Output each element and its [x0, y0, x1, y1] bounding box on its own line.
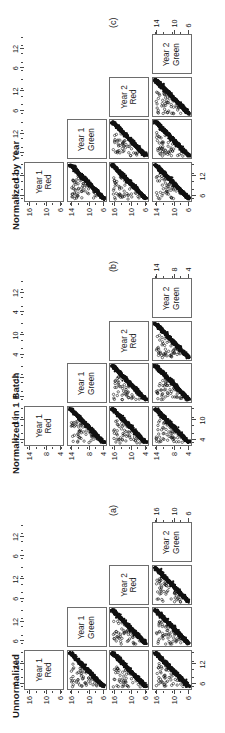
y-tick-mark [174, 691, 175, 695]
x-tick-mark [20, 664, 24, 665]
y-tick-minor [155, 447, 156, 449]
y-tick-minor [188, 447, 189, 449]
figure-panel-c: Normalized by Year(c)6101661014610166101… [0, 0, 225, 244]
y-tick-minor [129, 203, 130, 205]
x-tick-label-bottom-c-1: 12 [198, 168, 207, 184]
y-tick-minor [61, 447, 62, 449]
y-tick-label-c-r1-0: 6 [99, 208, 108, 224]
y-tick-minor [36, 203, 37, 205]
scatter-cell-c-r3c1 [152, 120, 192, 160]
y-tick-label-a-r2-0: 6 [141, 696, 150, 712]
variable-label-line2: Green [172, 287, 181, 310]
x-tick-mark [20, 396, 24, 397]
y-tick-label-b-r1-2: 14 [67, 452, 76, 468]
y-tick-minor [44, 203, 45, 205]
x-tick-label-a-c1-0: 6 [11, 633, 20, 649]
panel-letter-c: (c) [108, 18, 118, 29]
y-tick-minor [112, 691, 113, 693]
x-tick-label-b-c2-1: 10 [11, 327, 20, 343]
scatter-cell-a-r1c0 [67, 650, 107, 690]
y-tick-label-c-r0-2: 16 [25, 208, 34, 224]
scatterplot-matrix-b: Year 1RedYear 1GreenYear 2RedYear 2Green [24, 276, 194, 446]
y-tick-mark [71, 447, 72, 451]
y-tick-minor [36, 691, 37, 693]
variable-label-line1: Year 1 [35, 414, 44, 437]
y-tick-label-b-r3-1: 8 [170, 452, 179, 468]
y-tick-minor [78, 203, 79, 205]
diagonal-label-cell-a-3: Year 2Green [152, 523, 192, 563]
x-tick-label-b-c3-1: 12 [11, 285, 20, 301]
scatter-cell-b-r2c0 [109, 406, 149, 446]
y-tick-minor [112, 203, 113, 205]
scatterplot-matrix-c: Year 1RedYear 1GreenYear 2RedYear 2Green [24, 32, 194, 202]
x-tick-label-bottom-b-0: 4 [198, 432, 207, 448]
y-tick-label-b-r2-0: 4 [141, 452, 150, 468]
diagonal-label-cell-b-1: Year 1Green [67, 364, 107, 404]
y-tick-label-b-r2-2: 16 [110, 452, 119, 468]
y-tick-mark [114, 691, 115, 695]
x-tick-label-b-c0-1: 10 [11, 412, 20, 428]
y-tick-label-a-r0-1: 10 [42, 696, 51, 712]
variable-label-line2: Red [44, 174, 53, 189]
variable-label-line1: Year 1 [77, 128, 86, 151]
y-tick-minor [70, 691, 71, 693]
y-tick-label-c-r0-1: 10 [42, 208, 51, 224]
x-tick-mark [20, 439, 24, 440]
y-tick-minor [78, 447, 79, 449]
variable-label-line1: Year 1 [77, 372, 86, 395]
x-tick-label-b-c0-0: 4 [11, 432, 20, 448]
y-tick-label-a-r0-2: 16 [25, 696, 34, 712]
y-tick-minor [103, 447, 104, 449]
scatter-cell-b-r3c0 [152, 406, 192, 446]
y-tick-minor [44, 691, 45, 693]
y-tick-minor [137, 203, 138, 205]
diagonal-label-cell-c-0: Year 1Red [24, 162, 64, 202]
diagonal-label-cell-a-2: Year 2Red [109, 565, 149, 605]
y-tick-mark [114, 447, 115, 451]
variable-label-line1: Year 2 [120, 573, 129, 596]
x-tick-label-b-c1-1: 12 [11, 370, 20, 386]
x-tick-label-a-c0-1: 12 [11, 656, 20, 672]
y-tick-minor [95, 691, 96, 693]
x-tick-mark [20, 555, 24, 556]
y-tick-mark [89, 691, 90, 695]
figure-canvas: Normalized by Year(c)6101661014610166101… [0, 0, 225, 733]
y-tick-label-b-r0-2: 14 [25, 452, 34, 468]
y-tick-label-right-a-1: 10 [170, 500, 179, 516]
y-tick-label-c-r2-1: 10 [127, 208, 136, 224]
x-tick-mark [20, 48, 24, 49]
y-tick-label-c-r2-2: 16 [110, 208, 119, 224]
x-tick-label-a-c3-1: 12 [11, 529, 20, 545]
y-tick-minor [103, 203, 104, 205]
y-tick-mark [71, 203, 72, 207]
x-tick-mark [20, 292, 24, 293]
x-tick-label-c-c3-1: 12 [11, 41, 20, 57]
diagonal-label-cell-c-1: Year 1Green [67, 120, 107, 160]
y-tick-minor [121, 447, 122, 449]
diagonal-label-cell-b-0: Year 1Red [24, 406, 64, 446]
y-tick-minor [137, 447, 138, 449]
panel-letter-b: (b) [108, 261, 118, 272]
x-tick-label-a-c1-1: 12 [11, 614, 20, 630]
y-tick-label-a-r3-1: 10 [170, 696, 179, 712]
x-tick-mark [20, 420, 24, 421]
x-tick-mark [20, 91, 24, 92]
y-tick-minor [129, 447, 130, 449]
y-tick-minor [44, 447, 45, 449]
variable-label-line2: Red [129, 89, 138, 104]
y-tick-minor [87, 447, 88, 449]
y-tick-minor [36, 447, 37, 449]
diagonal-label-cell-a-1: Year 1Green [67, 608, 107, 648]
scatter-cell-a-r3c0 [152, 650, 192, 690]
x-tick-label-c-c2-1: 12 [11, 83, 20, 99]
x-tick-label-c-c1-1: 12 [11, 126, 20, 142]
x-tick-label-c-c0-1: 12 [11, 168, 20, 184]
y-tick-mark [156, 203, 157, 207]
variable-label-line1: Year 2 [120, 85, 129, 108]
y-tick-mark [131, 447, 132, 451]
y-tick-minor [180, 447, 181, 449]
panel-letter-a: (a) [108, 505, 118, 516]
scatter-cell-a-r3c2 [152, 565, 192, 605]
diagonal-label-cell-c-3: Year 2Green [152, 35, 192, 75]
variable-label-line2: Green [87, 616, 96, 639]
